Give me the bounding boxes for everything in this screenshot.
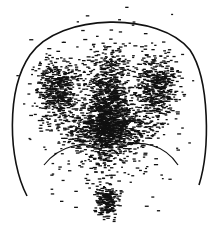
density-plot — [0, 0, 213, 231]
stipple-dots — [16, 7, 194, 222]
right-lower-curve — [118, 143, 178, 165]
stipple-density-figure — [0, 0, 213, 231]
